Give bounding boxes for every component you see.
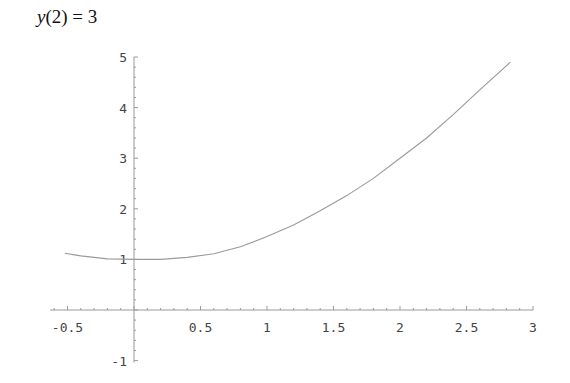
x-tick-label: 1 <box>263 320 271 335</box>
x-tick-label: 3 <box>529 320 537 335</box>
x-tick-label: 1.5 <box>322 320 345 335</box>
tick-labels: -0.50.511.522.53-112345 <box>52 50 537 369</box>
y-tick-label: 4 <box>119 101 127 116</box>
y-tick-label: 3 <box>119 151 127 166</box>
solution-curve <box>65 62 511 259</box>
y-tick-label: -1 <box>111 354 127 369</box>
y-tick-label: 5 <box>119 50 127 65</box>
y-tick-label: 2 <box>119 202 127 217</box>
plot-area: -0.50.511.522.53-112345 <box>0 0 570 383</box>
y-tick-label: 1 <box>119 252 127 267</box>
x-tick-label: 2 <box>396 320 404 335</box>
x-tick-label: -0.5 <box>52 320 83 335</box>
x-tick-label: 0.5 <box>189 320 212 335</box>
x-tick-label: 2.5 <box>455 320 478 335</box>
